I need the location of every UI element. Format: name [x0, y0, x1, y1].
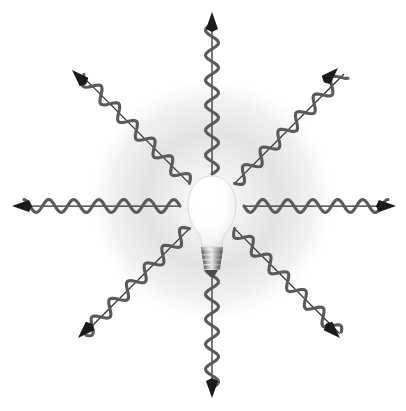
screw-ridge-4 [204, 266, 220, 270]
illustration-canvas [0, 0, 406, 411]
screw-ridge-2 [202, 256, 222, 260]
bulb-highlight [192, 180, 218, 212]
screw-ridge-3 [203, 261, 221, 265]
light-bulb-illustration [0, 0, 406, 411]
screw-ridge-1 [201, 251, 222, 255]
